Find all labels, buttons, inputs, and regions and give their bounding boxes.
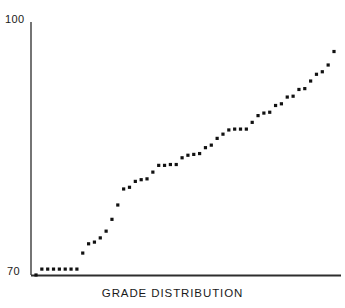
data-point — [292, 95, 295, 98]
data-point — [297, 88, 300, 91]
data-point — [286, 95, 289, 98]
data-point — [268, 111, 271, 114]
data-point — [151, 171, 154, 174]
data-point — [40, 268, 43, 271]
data-point — [204, 146, 207, 149]
data-point — [87, 242, 90, 245]
data-point-group — [34, 50, 335, 277]
data-point — [163, 164, 166, 167]
data-point — [75, 268, 78, 271]
data-point — [157, 164, 160, 167]
data-point — [280, 102, 283, 105]
axis-lines — [31, 22, 341, 276]
data-point — [69, 268, 72, 271]
data-point — [327, 63, 330, 66]
data-point — [116, 203, 119, 206]
data-point — [46, 268, 49, 271]
data-point — [175, 163, 178, 166]
data-point — [303, 87, 306, 90]
data-point — [239, 128, 242, 131]
data-point — [262, 111, 265, 114]
data-point — [180, 156, 183, 159]
data-point — [245, 128, 248, 131]
scatter-plot-area — [0, 0, 345, 308]
data-point — [256, 114, 259, 117]
data-point — [227, 128, 230, 131]
data-point — [99, 236, 102, 239]
data-point — [233, 128, 236, 131]
data-point — [81, 251, 84, 254]
data-point — [140, 178, 143, 181]
data-point — [192, 153, 195, 156]
data-point — [198, 152, 201, 155]
data-point — [169, 163, 172, 166]
data-point — [34, 273, 37, 276]
data-point — [332, 50, 335, 53]
data-point — [52, 268, 55, 271]
data-point — [58, 268, 61, 271]
data-point — [64, 268, 67, 271]
data-point — [186, 154, 189, 157]
data-point — [128, 186, 131, 189]
data-point — [122, 187, 125, 190]
data-point — [321, 70, 324, 73]
data-point — [210, 144, 213, 147]
data-point — [274, 104, 277, 107]
data-point — [251, 121, 254, 124]
data-point — [315, 73, 318, 76]
chart-figure: 100 70 GRADE DISTRIBUTION — [0, 0, 345, 308]
data-point — [221, 133, 224, 136]
data-point — [216, 137, 219, 140]
chart-caption: GRADE DISTRIBUTION — [0, 287, 345, 299]
data-point — [309, 79, 312, 82]
data-point — [134, 180, 137, 183]
data-point — [110, 218, 113, 221]
data-point — [93, 241, 96, 244]
data-point — [105, 230, 108, 233]
data-point — [145, 177, 148, 180]
